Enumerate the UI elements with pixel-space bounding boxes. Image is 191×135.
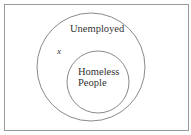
homeless-label-line2: People xyxy=(78,77,107,88)
unemployed-label: Unemployed xyxy=(70,23,125,34)
element-x-label: x xyxy=(56,46,61,56)
venn-diagram: Unemployed x Homeless People xyxy=(0,0,191,135)
homeless-label-line1: Homeless xyxy=(78,66,119,77)
